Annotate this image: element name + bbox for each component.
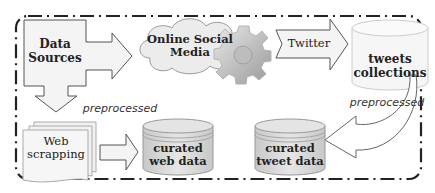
data-sources-line1: Data (26, 38, 84, 52)
data-sources-shape (24, 20, 132, 112)
tweet-preprocessed-label: preprocessed (346, 97, 428, 110)
curated-tweet-data-label: curated tweet data (252, 142, 328, 168)
twitter-label: Twitter (284, 37, 334, 50)
ctd-line2: tweet data (252, 155, 328, 168)
web-scrapping-label: Web scrapping (24, 135, 88, 161)
cwd-line2: web data (143, 155, 213, 168)
curated-web-data-label: curated web data (143, 142, 213, 168)
ws-line2: scrapping (24, 148, 88, 161)
data-sources-label: Data Sources (26, 38, 84, 66)
tweets-collections-label: tweets collections (350, 53, 430, 81)
tc-line1: tweets (350, 53, 430, 67)
online-social-media-label: Online Social Media (140, 33, 240, 59)
web-preprocessed-label: preprocessed (80, 103, 160, 116)
tc-line2: collections (350, 67, 430, 81)
osm-line2: Media (140, 46, 240, 59)
web-arrow-shape (100, 134, 138, 170)
data-sources-line2: Sources (26, 52, 84, 66)
